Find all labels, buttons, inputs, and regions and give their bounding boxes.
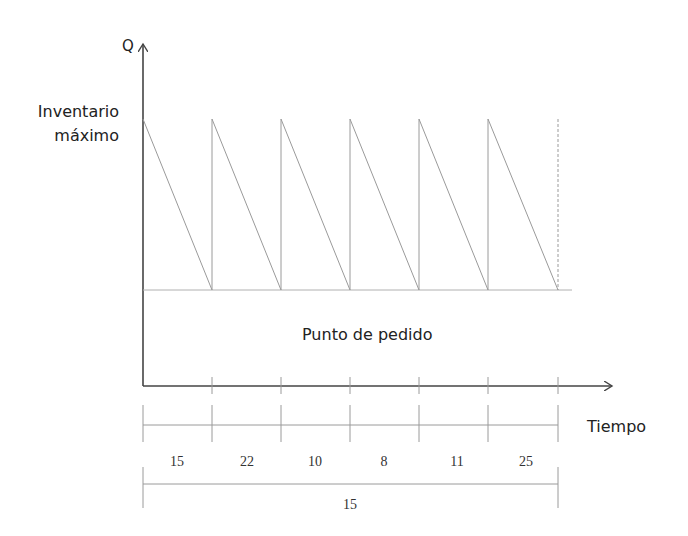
sawtooth-curve [143,119,558,290]
interval-label: 25 [519,454,533,469]
max-inventory-label: Inventario [38,102,119,121]
interval-label: 8 [381,454,388,469]
interval-label: 15 [170,454,184,469]
x-axis-label: Tiempo [586,417,646,436]
interval-label: 10 [308,454,322,469]
reorder-point-label: Punto de pedido [302,325,432,344]
interval-row [143,405,558,442]
interval-labels: 15 22 10 8 11 25 [170,454,533,469]
total-interval-label: 15 [343,497,357,512]
interval-label: 22 [240,454,254,469]
max-inventory-label-2: máximo [54,126,119,145]
y-axis-label: Q [122,37,134,55]
inventory-sawtooth-diagram: Q Tiempo Inventario máximo Punto de pedi… [0,0,688,536]
interval-label: 11 [450,454,463,469]
